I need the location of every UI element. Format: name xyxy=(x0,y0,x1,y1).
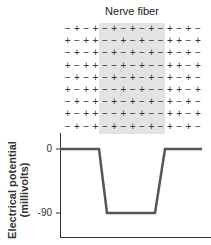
y-axis-label-line2: (millivolts) xyxy=(18,141,30,239)
y-axis-label: Electrical potential (millivolts) xyxy=(6,141,30,239)
y-axis-label-line1: Electrical potential xyxy=(6,141,18,239)
potential-line xyxy=(60,149,202,213)
